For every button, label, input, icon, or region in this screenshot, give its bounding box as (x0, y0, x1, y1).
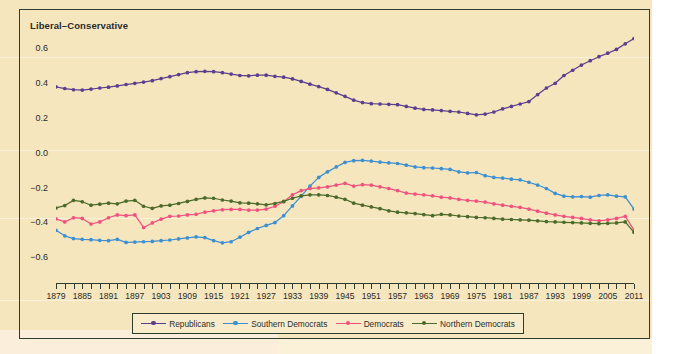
x-tick-label: 1921 (230, 291, 249, 301)
x-tick (634, 284, 635, 289)
x-tick (538, 284, 539, 289)
x-tick-label: 1975 (467, 291, 486, 301)
x-tick-label: 1915 (204, 291, 223, 301)
x-tick-label: 1885 (73, 291, 92, 301)
legend-label: Southern Democrats (251, 319, 327, 329)
x-tick (590, 284, 591, 289)
x-tick-label: 1945 (335, 291, 354, 301)
x-tick (266, 284, 267, 289)
plot-area (56, 32, 634, 272)
x-tick (240, 284, 241, 289)
x-tick (555, 284, 556, 289)
x-tick-label: 1969 (441, 291, 460, 301)
x-tick (345, 284, 346, 289)
legend-swatch-icon (141, 320, 166, 328)
x-tick-label: 1957 (388, 291, 407, 301)
chart-title: Liberal–Conservative (30, 20, 128, 31)
x-tick (275, 284, 276, 289)
x-tick (100, 284, 101, 289)
x-tick-label: 1897 (125, 291, 144, 301)
x-tick-label: 1963 (414, 291, 433, 301)
x-tick (433, 284, 434, 289)
x-tick (292, 284, 293, 289)
x-tick (599, 284, 600, 289)
x-tick (485, 284, 486, 289)
legend-label: Democrats (364, 319, 404, 329)
x-tick (503, 284, 504, 289)
x-tick-label: 2005 (598, 291, 617, 301)
legend-swatch-icon (223, 320, 248, 328)
x-tick (109, 284, 110, 289)
x-tick (336, 284, 337, 289)
legend-swatch-icon (336, 320, 361, 328)
legend-item-southern-democrats[interactable]: Southern Democrats (223, 319, 327, 329)
x-tick (398, 284, 399, 289)
x-tick (380, 284, 381, 289)
x-tick (459, 284, 460, 289)
legend-item-republicans[interactable]: Republicans (141, 319, 215, 329)
x-tick (222, 284, 223, 289)
x-tick (170, 284, 171, 289)
x-tick (511, 284, 512, 289)
x-tick (205, 284, 206, 289)
x-tick (126, 284, 127, 289)
chart-screenshot: Liberal–Conservative 0.60.40.20.0−0.2−0.… (0, 0, 673, 354)
x-tick (625, 284, 626, 289)
x-tick (363, 284, 364, 289)
x-tick (257, 284, 258, 289)
x-tick (520, 284, 521, 289)
x-tick (581, 284, 582, 289)
x-tick (249, 284, 250, 289)
x-tick-label: 1951 (362, 291, 381, 301)
x-tick (179, 284, 180, 289)
x-tick-label: 1903 (152, 291, 171, 301)
x-tick-label: 1891 (99, 291, 118, 301)
x-tick (196, 284, 197, 289)
x-tick (310, 284, 311, 289)
x-tick (91, 284, 92, 289)
x-tick (573, 284, 574, 289)
x-tick-label: 1909 (178, 291, 197, 301)
x-tick-label: 1999 (572, 291, 591, 301)
x-tick (82, 284, 83, 289)
legend-item-northern-democrats[interactable]: Northern Democrats (412, 319, 515, 329)
x-tick (135, 284, 136, 289)
x-tick (56, 284, 57, 289)
x-tick-label: 1879 (46, 291, 65, 301)
x-tick (371, 284, 372, 289)
x-tick (161, 284, 162, 289)
x-tick-label: 1933 (283, 291, 302, 301)
x-tick-label: 1927 (257, 291, 276, 301)
series-southern-democrats (56, 159, 634, 245)
x-tick (389, 284, 390, 289)
x-tick (424, 284, 425, 289)
x-tick (354, 284, 355, 289)
legend-item-democrats[interactable]: Democrats (336, 319, 404, 329)
x-tick (476, 284, 477, 289)
x-tick (319, 284, 320, 289)
x-tick (187, 284, 188, 289)
x-tick (284, 284, 285, 289)
x-tick (327, 284, 328, 289)
x-tick (608, 284, 609, 289)
x-tick (415, 284, 416, 289)
x-tick (214, 284, 215, 289)
x-tick-label: 1939 (309, 291, 328, 301)
legend-label: Northern Democrats (440, 319, 515, 329)
x-tick (74, 284, 75, 289)
legend-swatch-icon (412, 320, 437, 328)
x-axis-labels: 1879188518911897190319091915192119271933… (0, 291, 673, 305)
chart-legend: RepublicansSouthern DemocratsDemocratsNo… (132, 313, 524, 334)
x-tick-label: 1993 (546, 291, 565, 301)
x-tick (468, 284, 469, 289)
legend-label: Republicans (169, 319, 215, 329)
x-tick (152, 284, 153, 289)
x-tick (144, 284, 145, 289)
x-tick (406, 284, 407, 289)
x-tick (564, 284, 565, 289)
x-tick (65, 284, 66, 289)
series-republicans (56, 37, 634, 117)
x-tick-label: 1981 (493, 291, 512, 301)
x-tick (450, 284, 451, 289)
x-tick-label: 1987 (519, 291, 538, 301)
